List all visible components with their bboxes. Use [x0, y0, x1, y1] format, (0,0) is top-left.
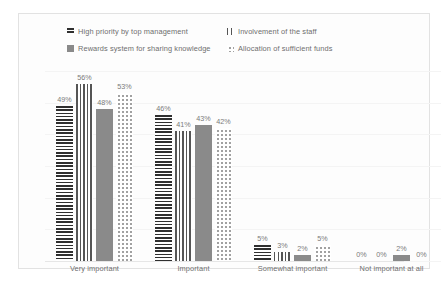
bar[interactable] [314, 245, 331, 261]
bar-value-label: 42% [216, 117, 230, 126]
bar-value-label: 3% [277, 241, 287, 250]
bar-group-bars: 46%41%43%42% [144, 71, 243, 261]
bar-slot: 0% [353, 71, 370, 261]
bar-slot: 0% [413, 71, 430, 261]
chart-frame: High priority by top managementInvolveme… [18, 13, 430, 269]
bar-slot: 42% [215, 71, 232, 261]
category-axis-label: Somewhat important [243, 264, 342, 273]
bar-slot: 56% [76, 71, 93, 261]
bar-group-bars: 0%0%2%0% [342, 71, 441, 261]
bar[interactable] [56, 106, 73, 261]
bar-slot: 43% [195, 71, 212, 261]
bar[interactable] [155, 115, 172, 261]
bar-value-label: 2% [297, 244, 307, 253]
bar-slot: 46% [155, 71, 172, 261]
legend-item-label: High priority by top management [78, 27, 188, 36]
legend-item[interactable]: Involvement of the staff [227, 27, 397, 36]
legend-item[interactable]: Rewards system for sharing knowledge [67, 44, 227, 53]
bar[interactable] [274, 252, 291, 262]
category-axis-label: Very important [45, 264, 144, 273]
bar-value-label: 5% [257, 234, 267, 243]
legend-item[interactable]: High priority by top management [67, 27, 227, 36]
bar-slot: 41% [175, 71, 192, 261]
legend-item-label: Allocation of sufficient funds [238, 44, 332, 53]
category-axis-label: Not important at all [342, 264, 441, 273]
bar-group-bars: 49%56%48%53% [45, 71, 144, 261]
bar-group: 49%56%48%53% [45, 71, 144, 261]
bar-value-label: 56% [77, 73, 91, 82]
category-axis-line [45, 261, 404, 262]
category-axis-labels: Very importantImportantSomewhat importan… [45, 264, 441, 273]
bar-group-bars: 5%3%2%5% [243, 71, 342, 261]
bar-slot: 5% [254, 71, 271, 261]
bar-slot: 0% [373, 71, 390, 261]
bar-value-label: 2% [396, 244, 406, 253]
bar-value-label: 46% [156, 104, 170, 113]
bar-group: 0%0%2%0% [342, 71, 441, 261]
bar[interactable] [195, 125, 212, 261]
bar-slot: 49% [56, 71, 73, 261]
bar-group: 46%41%43%42% [144, 71, 243, 261]
bar-slot: 5% [314, 71, 331, 261]
bar-value-label: 0% [376, 250, 386, 259]
legend-swatch-icon [227, 28, 234, 35]
bar-slot: 53% [116, 71, 133, 261]
legend-swatch-icon [67, 45, 74, 52]
bar[interactable] [254, 245, 271, 261]
bar-slot: 2% [294, 71, 311, 261]
bar-value-label: 53% [117, 82, 131, 91]
legend-item[interactable]: Allocation of sufficient funds [227, 44, 397, 53]
bar-value-label: 48% [97, 98, 111, 107]
bar-slot: 3% [274, 71, 291, 261]
bar-value-label: 5% [317, 234, 327, 243]
bar[interactable] [116, 93, 133, 261]
bar-value-label: 41% [176, 120, 190, 129]
bar-value-label: 49% [57, 95, 71, 104]
bar[interactable] [215, 128, 232, 261]
bar[interactable] [76, 84, 93, 261]
legend-swatch-icon [67, 28, 74, 35]
bar[interactable] [175, 131, 192, 261]
legend-swatch-icon [227, 45, 234, 52]
bar-value-label: 0% [416, 250, 426, 259]
bar-slot: 48% [96, 71, 113, 261]
bar-value-label: 43% [196, 114, 210, 123]
bar-group: 5%3%2%5% [243, 71, 342, 261]
chart-legend: High priority by top managementInvolveme… [67, 23, 397, 57]
category-axis-label: Important [144, 264, 243, 273]
legend-item-label: Involvement of the staff [238, 27, 317, 36]
bar-groups: 49%56%48%53%46%41%43%42%5%3%2%5%0%0%2%0% [45, 71, 441, 261]
bar[interactable] [96, 109, 113, 261]
plot-area: 49%56%48%53%46%41%43%42%5%3%2%5%0%0%2%0% [45, 71, 441, 261]
legend-item-label: Rewards system for sharing knowledge [78, 44, 211, 53]
bar-value-label: 0% [356, 250, 366, 259]
bar-slot: 2% [393, 71, 410, 261]
